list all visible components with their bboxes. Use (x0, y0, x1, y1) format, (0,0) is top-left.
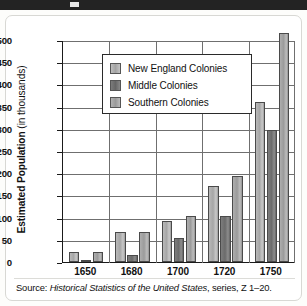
source-divider (14, 278, 295, 279)
bar (93, 252, 104, 262)
source-suffix: , series, Z 1–20. (207, 282, 272, 293)
bar (279, 33, 290, 262)
y-axis-title-bold: Estimated Population (16, 131, 27, 233)
plot-right-edge (294, 41, 295, 263)
chart-figure-frame: Estimated Population (in thousands) 0501… (5, 15, 302, 301)
figure-root: Estimated Population (in thousands) 0501… (0, 0, 307, 306)
plot-wrapper: Estimated Population (in thousands) 0501… (6, 16, 303, 302)
bar (186, 216, 197, 262)
y-axis-tick-label: 200 (0, 168, 12, 179)
source-note: Source: Historical Statistics of the Uni… (16, 282, 272, 293)
chart-legend: New England ColoniesMiddle ColoniesSouth… (102, 54, 252, 114)
y-axis-tick-label: 150 (0, 190, 12, 201)
legend-label: Southern Colonies (128, 97, 209, 108)
bar (81, 260, 92, 262)
legend-item: Middle Colonies (110, 77, 251, 94)
y-axis-tick-label: 0 (0, 257, 12, 268)
y-axis-tick-label: 50 (0, 235, 12, 246)
legend-label: New England Colonies (128, 63, 227, 74)
bar (127, 255, 138, 262)
bar (255, 102, 266, 262)
bar (174, 238, 185, 262)
legend-swatch-icon (110, 63, 121, 74)
source-title: Historical Statistics of the United Stat… (50, 282, 207, 293)
source-prefix: Source: (16, 282, 47, 293)
legend-item: Southern Colonies (110, 94, 251, 111)
y-axis-tick-label: 450 (0, 57, 12, 68)
y-axis-tick-label: 400 (0, 79, 12, 90)
bar (267, 130, 278, 262)
y-axis-tick-label: 350 (0, 102, 12, 113)
bar (139, 232, 150, 262)
bar (220, 216, 231, 262)
legend-swatch-icon (110, 80, 121, 91)
y-axis-title-units: (in thousands) (16, 65, 27, 131)
y-axis-tick-label: 300 (0, 124, 12, 135)
bar (208, 186, 219, 262)
y-axis-title: Estimated Population (in thousands) (16, 39, 27, 261)
y-axis-tick-mark (57, 263, 62, 264)
bar (115, 232, 126, 262)
legend-swatch-icon (110, 97, 121, 108)
y-axis-tick-label: 100 (0, 213, 12, 224)
gridline (63, 41, 295, 42)
legend-label: Middle Colonies (128, 80, 198, 91)
x-axis-tick-label: 1750 (241, 266, 301, 277)
legend-item: New England Colonies (110, 60, 251, 77)
page-header-band (0, 0, 307, 10)
bar (69, 252, 80, 262)
y-axis-tick-label: 500 (0, 35, 12, 46)
bar (162, 221, 173, 262)
bar (232, 176, 243, 262)
y-axis-tick-label: 250 (0, 146, 12, 157)
header-notch (70, 2, 79, 7)
legend-rows: New England ColoniesMiddle ColoniesSouth… (110, 60, 251, 111)
